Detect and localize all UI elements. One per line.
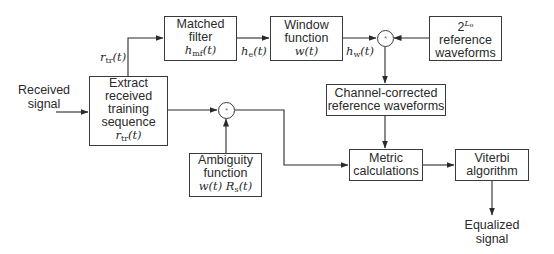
- metric-line-2: calculations: [353, 165, 418, 178]
- convolution-operator-2: *: [218, 102, 235, 119]
- ambiguity-math: w(t) Rs(t): [199, 180, 252, 196]
- input-label-line-2: signal: [14, 97, 74, 111]
- signal-label-r-tr: rtr(t): [100, 50, 126, 65]
- equalized-signal-label: Equalized signal: [457, 218, 527, 246]
- arrow-extract-to-matched-filter: [128, 38, 163, 76]
- ambiguity-function-block: Ambiguity function w(t) Rs(t): [189, 153, 262, 197]
- window-function-block: Window function w(t): [270, 16, 343, 61]
- channel-corrected-block: Channel-corrected reference waveforms: [326, 84, 446, 116]
- reference-count-math: 2Lo: [458, 17, 474, 34]
- matched-filter-block: Matched filter hmf(t): [164, 16, 237, 61]
- viterbi-algorithm-block: Viterbi algorithm: [455, 149, 529, 181]
- input-label-line-1: Received: [14, 83, 74, 97]
- received-signal-label: Received signal: [14, 83, 74, 111]
- output-label-line-1: Equalized: [457, 218, 527, 232]
- viterbi-line-2: algorithm: [466, 165, 517, 178]
- channel-corrected-line-2: reference waveforms: [328, 100, 445, 113]
- asterisk-icon: *: [225, 106, 228, 115]
- extract-math: rtr(t): [115, 129, 141, 145]
- metric-calculations-block: Metric calculations: [349, 149, 423, 181]
- matched-filter-math: hmf(t): [185, 44, 217, 60]
- asterisk-icon: *: [384, 34, 387, 43]
- convolution-operator-1: *: [377, 30, 394, 47]
- output-label-line-2: signal: [457, 232, 527, 246]
- extract-training-sequence-block: Extract received training sequence rtr(t…: [89, 76, 168, 146]
- signal-label-h-e: he(t): [241, 44, 267, 59]
- signal-label-h-w: hw(t): [346, 44, 374, 59]
- matched-filter-line-1: Matched: [177, 18, 225, 31]
- window-math: w(t): [295, 45, 318, 58]
- reference-line-2: waveforms: [435, 47, 495, 60]
- reference-waveforms-block: 2Lo reference waveforms: [429, 16, 502, 61]
